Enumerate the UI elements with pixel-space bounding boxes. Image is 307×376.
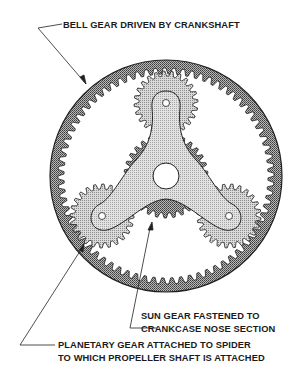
bell-gear-leader [38,24,86,84]
sun-gear-label-line2: CRANKCASE NOSE SECTION [141,323,275,335]
pin-hole-left [99,213,106,220]
planetary-gear-label-line2: TO WHICH PROPELLER SHAFT IS ATTACHED [58,352,265,364]
planetary-gear-label-line1: PLANETARY GEAR ATTACHED TO SPIDER [58,339,251,351]
pin-hole-top [163,100,170,107]
sun-gear-label-line1: SUN GEAR FASTENED TO [141,310,260,322]
bell-gear-arrowhead [80,75,86,84]
propeller-shaft-hole [153,163,179,189]
pin-hole-right [226,213,233,220]
bell-gear-label: BELL GEAR DRIVEN BY CRANKSHAFT [63,19,240,31]
planetary-leader [20,248,82,345]
